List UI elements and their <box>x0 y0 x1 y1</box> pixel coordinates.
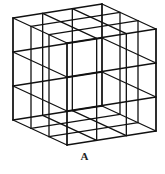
grid-line <box>67 97 156 111</box>
figure-label: A <box>0 150 165 162</box>
grid-line <box>13 38 102 52</box>
grid-line <box>13 52 67 77</box>
grid-line <box>102 38 156 63</box>
grid-line <box>13 86 67 111</box>
wireframe-cube-diagram <box>0 0 165 174</box>
grid-line <box>67 63 156 77</box>
grid-line <box>102 72 156 97</box>
